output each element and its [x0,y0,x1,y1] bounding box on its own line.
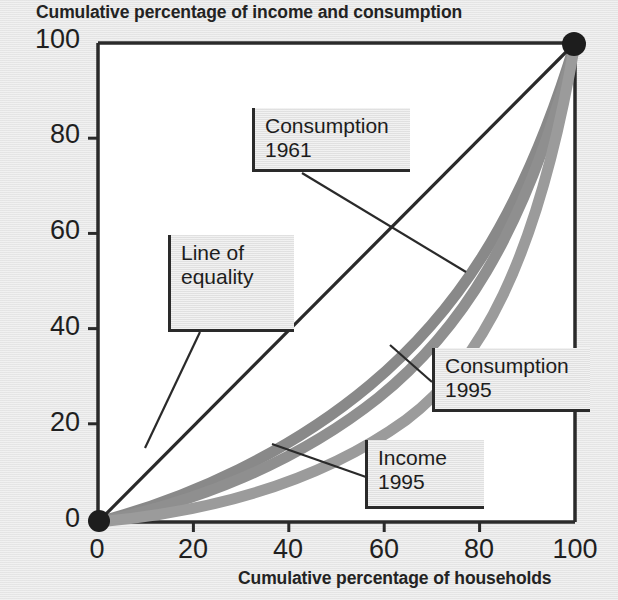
callout-consumption-1995[interactable]: Consumption 1995 [432,348,590,412]
callout-consumption-1961[interactable]: Consumption 1961 [252,108,410,172]
chart-page: Cumulative percentage of income and cons… [0,0,618,600]
plot-svg [0,0,618,600]
callout-line-of-equality[interactable]: Line of equality [168,235,294,332]
endpoint-marker [562,32,586,56]
origin-marker [88,510,110,532]
callout-income-1995[interactable]: Income 1995 [365,440,484,509]
